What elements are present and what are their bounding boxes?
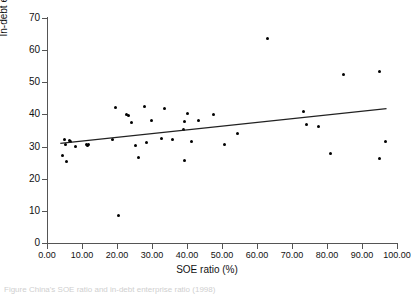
y-tick-mark: [42, 211, 47, 212]
y-tick-mark: [42, 18, 47, 19]
x-tick-mark: [152, 244, 153, 249]
scatter-point: [378, 70, 381, 73]
scatter-point: [305, 123, 308, 126]
x-tick-label: 100.00: [377, 250, 414, 260]
x-tick-label: 30.00: [132, 250, 172, 260]
x-tick-mark: [327, 244, 328, 249]
scatter-point: [182, 128, 185, 131]
scatter-point: [127, 114, 130, 117]
scatter-point: [87, 143, 90, 146]
scatter-point: [69, 140, 72, 143]
figure-caption: Figure China's SOE ratio and in-debt ent…: [4, 285, 414, 295]
scatter-point: [197, 119, 200, 122]
scatter-point: [134, 144, 137, 147]
scatter-point: [378, 157, 381, 160]
scatter-point: [74, 145, 77, 148]
x-tick-label: 20.00: [97, 250, 137, 260]
x-tick-label: 10.00: [62, 250, 102, 260]
scatter-point: [384, 140, 387, 143]
y-tick-mark: [42, 179, 47, 180]
scatter-point: [117, 214, 120, 217]
y-tick-mark: [42, 82, 47, 83]
scatter-point: [266, 37, 269, 40]
x-tick-mark: [222, 244, 223, 249]
x-tick-mark: [117, 244, 118, 249]
x-axis-title: SOE ratio (%): [0, 264, 414, 275]
scatter-point: [329, 152, 332, 155]
scatter-point: [236, 132, 239, 135]
scatter-point: [212, 113, 215, 116]
x-tick-mark: [257, 244, 258, 249]
scatter-point: [317, 125, 320, 128]
scatter-point: [65, 160, 68, 163]
scatter-point: [302, 110, 305, 113]
scatter-point: [186, 112, 189, 115]
scatter-point: [171, 138, 174, 141]
y-tick-label: 20: [0, 174, 40, 184]
x-tick-label: 90.00: [342, 250, 382, 260]
y-tick-mark: [42, 114, 47, 115]
y-tick-label: 70: [0, 13, 40, 23]
y-tick-label: 30: [0, 142, 40, 152]
y-tick-label: 0: [0, 238, 40, 248]
scatter-point: [163, 107, 166, 110]
y-tick-mark: [42, 50, 47, 51]
scatter-point: [145, 141, 148, 144]
x-tick-label: 40.00: [167, 250, 207, 260]
scatter-point: [183, 159, 186, 162]
scatter-point: [114, 106, 117, 109]
x-tick-mark: [82, 244, 83, 249]
scatter-point: [137, 156, 140, 159]
regression-trendline: [60, 109, 386, 144]
scatter-point: [64, 143, 67, 146]
x-tick-label: 50.00: [202, 250, 242, 260]
x-tick-mark: [397, 244, 398, 249]
scatter-point: [130, 121, 133, 124]
y-tick-label: 50: [0, 77, 40, 87]
x-tick-mark: [362, 244, 363, 249]
x-tick-label: 60.00: [237, 250, 277, 260]
x-tick-mark: [187, 244, 188, 249]
figure-scatter-soe-ratio: In-debt enterprise ratio (%) 01020304050…: [0, 0, 414, 296]
x-tick-mark: [47, 244, 48, 249]
scatter-point: [63, 138, 66, 141]
y-tick-label: 40: [0, 109, 40, 119]
x-tick-label: 80.00: [307, 250, 347, 260]
scatter-point: [190, 140, 193, 143]
scatter-point: [223, 143, 226, 146]
x-tick-label: 0.00: [27, 250, 67, 260]
scatter-point: [183, 120, 186, 123]
y-tick-label: 60: [0, 45, 40, 55]
y-axis-line: [47, 17, 48, 244]
x-tick-mark: [292, 244, 293, 249]
scatter-point: [111, 138, 114, 141]
scatter-point: [150, 119, 153, 122]
scatter-point: [61, 154, 64, 157]
y-tick-label: 10: [0, 206, 40, 216]
y-tick-mark: [42, 147, 47, 148]
scatter-point: [143, 105, 146, 108]
scatter-point: [160, 137, 163, 140]
scatter-point: [342, 73, 345, 76]
x-tick-label: 70.00: [272, 250, 312, 260]
